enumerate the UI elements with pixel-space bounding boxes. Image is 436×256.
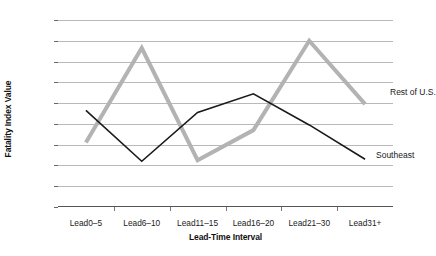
x-axis-tick-label: Lead21–30	[288, 219, 330, 227]
series-label-southeast: Southeast	[376, 151, 414, 160]
x-axis-tick-label: Lead0–5	[70, 219, 102, 227]
series-label-rest-of-u-s: Rest of U.S.	[390, 88, 436, 97]
x-axis-tick-label: Lead6–10	[123, 219, 160, 227]
x-axis-title: Lead-Time Interval	[58, 232, 393, 242]
x-axis-tick-mark	[170, 207, 171, 211]
x-axis-tick-label: Lead16–20	[233, 219, 275, 227]
y-axis-tick-mark	[54, 207, 58, 208]
x-axis-tick-mark	[114, 207, 115, 211]
y-axis-title: Fatality Index Value	[1, 16, 15, 223]
plot-area: 020406080100120140160180 Lead0–5Lead6–10…	[58, 20, 393, 207]
x-axis-tick-mark	[337, 207, 338, 211]
x-axis-tick-mark	[281, 207, 282, 211]
series-line	[86, 94, 365, 162]
x-axis-tick-mark	[226, 207, 227, 211]
x-axis-tick-label: Lead31+	[349, 219, 382, 227]
series-lines	[58, 20, 393, 207]
x-axis-tick-label: Lead11–15	[177, 219, 218, 227]
series-line	[86, 41, 365, 160]
